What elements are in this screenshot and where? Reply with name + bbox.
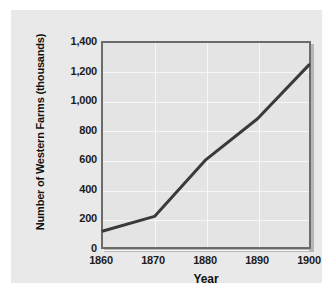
y-tick-label: 600	[37, 154, 97, 165]
y-tick-label: 1,400	[37, 36, 97, 47]
x-tick-label: 1870	[128, 254, 178, 266]
x-axis-ticks: 1860 1870 1880 1890 1900	[101, 254, 311, 270]
chart-figure: Number of Western Farms (thousands) 1,40…	[0, 0, 333, 299]
plot-inner	[103, 43, 309, 247]
y-tick-label: 400	[37, 184, 97, 195]
x-axis-title: Year	[101, 272, 311, 286]
x-tick-label: 1880	[180, 254, 230, 266]
chart-card: Number of Western Farms (thousands) 1,40…	[11, 10, 322, 283]
x-tick-label: 1860	[76, 254, 126, 266]
y-tick-label: 200	[37, 213, 97, 224]
y-tick-label: 0	[37, 243, 97, 254]
y-tick-label: 1,000	[37, 95, 97, 106]
x-tick-label: 1890	[232, 254, 282, 266]
data-series-line	[103, 43, 309, 247]
y-tick-label: 800	[37, 125, 97, 136]
plot-area	[101, 41, 311, 249]
y-axis-ticks: 1,400 1,200 1,000 800 600 400 200 0	[31, 41, 97, 249]
gridline-horizontal	[103, 250, 309, 251]
x-tick-label: 1900	[284, 254, 333, 266]
y-tick-label: 1,200	[37, 66, 97, 77]
